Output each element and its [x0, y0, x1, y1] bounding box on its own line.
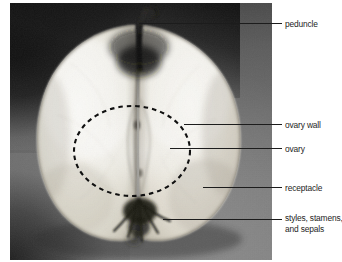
- label-ovary-wall: ovary wall: [285, 120, 321, 131]
- label-receptacle: receptacle: [285, 183, 322, 194]
- label-styles-stamens-sepals: styles, stamens, and sepals: [285, 213, 342, 234]
- apple-photo-content: [10, 3, 272, 260]
- label-ovary-wall-text: ovary wall: [285, 120, 321, 130]
- label-peduncle: peduncle: [285, 19, 318, 30]
- apple-section-figure: peduncle ovary wall ovary receptacle sty…: [0, 0, 342, 262]
- label-ovary-text: ovary: [285, 144, 305, 154]
- label-peduncle-text: peduncle: [285, 19, 318, 29]
- apple-photograph: [10, 3, 272, 260]
- label-styles-line2: and sepals: [285, 224, 342, 235]
- label-receptacle-text: receptacle: [285, 183, 322, 193]
- label-ovary: ovary: [285, 144, 305, 155]
- label-styles-line1: styles, stamens,: [285, 213, 342, 224]
